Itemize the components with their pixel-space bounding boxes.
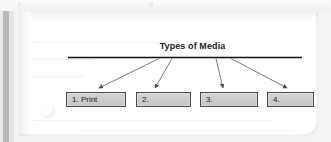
- header-ghost-right: .: [300, 1, 302, 7]
- media-box-3[interactable]: 3.: [200, 92, 258, 107]
- media-box-1[interactable]: 1. Print: [66, 92, 126, 107]
- diagram-title: Types of Media: [19, 41, 318, 51]
- scan-top-strip-shade: [14, 0, 331, 11]
- header-ghost-left: 1.: [18, 1, 23, 7]
- media-box-4-label: 4.: [273, 95, 280, 104]
- header-ghost-center: g: [150, 1, 153, 7]
- media-box-2-label: 2.: [142, 95, 149, 104]
- media-box-4[interactable]: 4.: [267, 92, 314, 107]
- screenshot-root: 1. g .: [0, 0, 331, 142]
- arrow-to-box-1: [99, 59, 159, 89]
- media-box-3-label: 3.: [206, 95, 213, 104]
- diagram-title-text: Types of Media: [160, 41, 226, 51]
- scan-top-strip: 1. g .: [0, 0, 331, 11]
- arrow-to-box-3: [216, 59, 223, 89]
- diagram-svg: [19, 12, 318, 136]
- media-box-1-label: 1. Print: [72, 95, 97, 104]
- types-of-media-diagram: Types of Media 1. Print 2. 3. 4.: [19, 12, 318, 136]
- arrow-to-box-2: [155, 59, 172, 89]
- arrow-to-box-4: [231, 59, 287, 89]
- media-box-2[interactable]: 2.: [136, 92, 191, 107]
- worksheet-page: Types of Media 1. Print 2. 3. 4.: [19, 12, 318, 136]
